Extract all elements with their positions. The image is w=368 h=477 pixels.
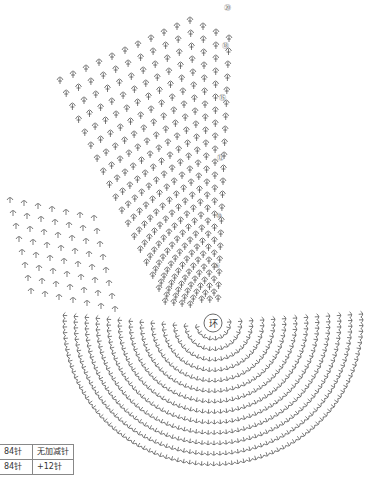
stitch-count: 84针 [0,460,33,475]
crochet-chart: 环 ⑳⑱⑮⑫⑩⑤ [0,0,368,477]
row-marker: ⑳ [224,4,231,12]
table-row: 84针 无加减针 [0,445,74,460]
row-marker: ⑩ [216,212,222,220]
row-marker: ⑤ [214,262,220,270]
row-marker: ⑱ [222,42,229,50]
stitch-change: 无加减针 [33,445,74,460]
row-marker: ⑫ [217,154,224,162]
stitch-count: 84针 [0,445,33,460]
row-marker: ⑮ [219,94,226,102]
center-label: 环 [209,319,218,329]
stitch-count-table: 84针 无加减针 84针 +12针 [0,444,74,475]
stitch-change: +12针 [33,460,74,475]
table-row: 84针 +12针 [0,460,74,475]
